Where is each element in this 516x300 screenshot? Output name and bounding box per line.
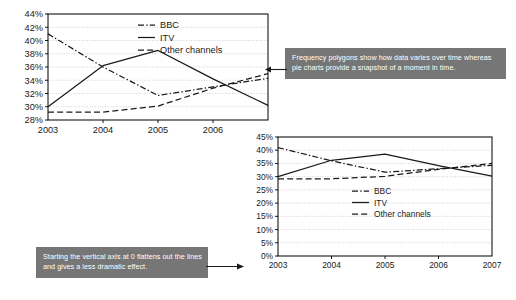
chart-zero-based-axis-svg: 0%5%10%15%20%25%30%35%40%45% 20032004200… — [240, 125, 516, 275]
legend-label: Other channels — [160, 45, 223, 55]
y-tick-label: 10% — [256, 225, 273, 235]
y-axis-ticklabels: 28%30%32%34%36%38%40%42%44% — [25, 9, 43, 125]
legend-label: ITV — [374, 198, 387, 208]
y-tick-label: 35% — [256, 158, 273, 168]
x-tick-label: 2006 — [429, 260, 448, 270]
x-tick-label: 2005 — [148, 125, 168, 135]
legend-label: BBC — [160, 20, 179, 30]
y-axis-ticklabels: 0%5%10%15%20%25%30%35%40%45% — [256, 132, 273, 261]
y-tick-label: 5% — [261, 238, 274, 248]
y-tick-label: 40% — [25, 36, 43, 46]
y-tick-label: 45% — [256, 132, 273, 142]
y-tick-label: 38% — [25, 49, 43, 59]
y-tick-label: 30% — [25, 102, 43, 112]
x-tick-label: 2005 — [376, 260, 395, 270]
legend-label: BBC — [374, 186, 391, 196]
y-tick-label: 15% — [256, 211, 273, 221]
y-tick-label: 42% — [25, 23, 43, 33]
x-tick-label: 2003 — [38, 125, 58, 135]
annotation-bottom-arrow — [206, 262, 244, 271]
annotation-frequency-polygons: Frequency polygons show how data varies … — [285, 48, 506, 79]
y-tick-label: 25% — [256, 185, 273, 195]
annotation-top-arrow — [265, 65, 287, 74]
plot-background — [278, 137, 492, 256]
y-tick-label: 44% — [25, 9, 43, 19]
x-tick-label: 2004 — [93, 125, 113, 135]
y-tick-label: 30% — [256, 172, 273, 182]
x-tick-label: 2007 — [483, 260, 502, 270]
y-tick-label: 40% — [256, 145, 273, 155]
x-axis-ticklabels: 2003200420052006 — [38, 125, 223, 135]
figure-canvas: 28%30%32%34%36%38%40%42%44% 200320042005… — [0, 0, 516, 300]
x-tick-label: 2004 — [322, 260, 341, 270]
annotation-zero-axis: Starting the vertical axis at 0 flattens… — [36, 247, 208, 278]
chart-zero-based-axis: 0%5%10%15%20%25%30%35%40%45% 20032004200… — [240, 125, 516, 275]
x-tick-label: 2003 — [269, 260, 288, 270]
y-tick-label: 20% — [256, 198, 273, 208]
y-tick-label: 32% — [25, 89, 43, 99]
x-axis-ticklabels: 20032004200520062007 — [269, 260, 502, 270]
y-tick-label: 34% — [25, 76, 43, 86]
legend-label: Other channels — [374, 209, 431, 219]
legend-label: ITV — [160, 33, 175, 43]
x-tick-label: 2006 — [203, 125, 223, 135]
y-tick-label: 36% — [25, 62, 43, 72]
